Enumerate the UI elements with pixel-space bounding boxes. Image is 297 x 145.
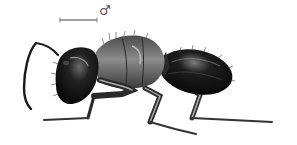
scale-bar xyxy=(60,18,97,23)
antenna xyxy=(24,43,58,109)
gaster xyxy=(155,43,237,101)
ant-drawing xyxy=(0,0,297,145)
eye xyxy=(63,61,69,65)
middle-leg xyxy=(145,88,196,134)
male-symbol: ♂ xyxy=(99,4,111,17)
